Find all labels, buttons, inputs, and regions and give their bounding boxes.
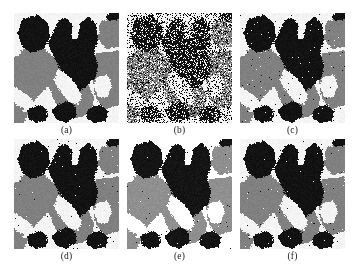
panel-d: (d) [14,139,119,262]
panel-image-d [14,139,119,249]
panel-caption-f: (f) [287,250,297,262]
panel-caption-c: (c) [287,124,298,136]
panel-image-a [14,13,119,123]
panel-b: (b) [127,13,232,136]
panel-f: (f) [240,139,345,262]
figure-panel-grid: (a) (b) (c) (d) (e) (f) [0,0,358,265]
panel-caption-d: (d) [61,250,73,262]
panel-caption-e: (e) [174,250,185,262]
panel-image-f [240,139,345,249]
panel-caption-a: (a) [61,124,72,136]
panel-c: (c) [240,13,345,136]
panel-image-b [127,13,232,123]
panel-grid: (a) (b) (c) (d) (e) (f) [14,13,344,262]
panel-image-c [240,13,345,123]
panel-e: (e) [127,139,232,262]
panel-image-e [127,139,232,249]
panel-caption-b: (b) [174,124,186,136]
panel-a: (a) [14,13,119,136]
